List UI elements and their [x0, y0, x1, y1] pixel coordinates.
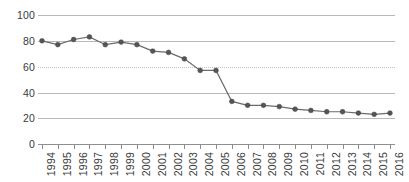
series-layer	[0, 0, 409, 182]
data-point-2005	[214, 68, 219, 73]
data-point-2008	[261, 103, 266, 108]
data-point-2015	[372, 112, 377, 117]
plot-area: 100 80 60 40 20 0 1994199519961997199819…	[0, 0, 409, 182]
data-point-2001	[150, 49, 155, 54]
data-point-2013	[340, 109, 345, 114]
data-point-2007	[245, 103, 250, 108]
data-point-1998	[103, 42, 108, 47]
data-point-2010	[293, 107, 298, 112]
data-point-2002	[166, 50, 171, 55]
data-point-2003	[182, 56, 187, 61]
data-point-2012	[324, 109, 329, 114]
data-point-2016	[388, 111, 393, 116]
data-point-2014	[356, 111, 361, 116]
data-point-1995	[55, 42, 60, 47]
data-point-2009	[277, 104, 282, 109]
data-point-1999	[119, 40, 124, 45]
data-point-2011	[309, 108, 314, 113]
data-point-1997	[87, 35, 92, 40]
data-point-1994	[40, 38, 45, 43]
series-line	[42, 37, 390, 114]
line-chart: 100 80 60 40 20 0 1994199519961997199819…	[0, 0, 409, 182]
data-point-2006	[229, 99, 234, 104]
data-point-1996	[71, 37, 76, 42]
series-markers	[40, 35, 393, 117]
data-point-2004	[198, 68, 203, 73]
data-point-2000	[135, 42, 140, 47]
